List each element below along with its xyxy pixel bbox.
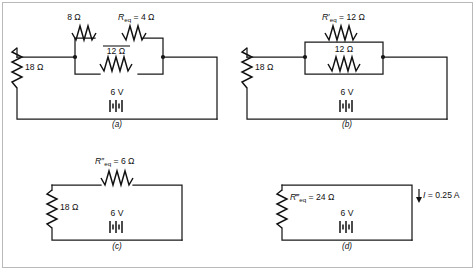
panel-a-resistor-18-symbol — [12, 48, 22, 88]
page-border — [3, 3, 473, 268]
panel-c-resistor-req-label: R″eq = 6 Ω — [95, 156, 135, 167]
panel-d-current-value: = 0.25 A — [425, 190, 459, 200]
panel-d-wire-left-rail-bottom — [282, 228, 412, 240]
panel-c-wire-left-rail-bottom — [52, 228, 182, 240]
panel-a-wire-upper-branch-right — [143, 38, 163, 57]
panel-b-resistor-18-symbol — [242, 48, 252, 88]
panel-a-resistor-12-symbol — [100, 57, 132, 71]
panel-b: 18 Ω R′eq = 12 Ω 12 Ω 6 V (b) — [242, 12, 447, 129]
panel-a-resistor-18-label: 18 Ω — [25, 62, 44, 72]
panel-a: 18 Ω 8 Ω Req = 4 Ω 12 Ω 6 V — [12, 12, 217, 129]
panel-a-resistor-8-label: 8 Ω — [67, 12, 81, 22]
panel-c-caption: (c) — [112, 242, 122, 251]
panel-d-resistor-req-label: R‴eq = 24 Ω — [290, 192, 335, 203]
panel-b-resistor-18-label: 18 Ω — [255, 62, 274, 72]
panel-c-resistor-18-symbol — [47, 190, 57, 228]
panel-a-caption: (a) — [112, 120, 122, 129]
panel-a-wire-middle-branch-right — [138, 57, 163, 74]
panel-b-wire-right-rail — [383, 57, 447, 119]
panel-c-battery-symbol — [110, 221, 122, 233]
panel-a-battery-label: 6 V — [111, 87, 124, 97]
panel-c-wire-top-right — [133, 185, 182, 240]
panel-a-wire-right-rail — [163, 57, 217, 119]
panel-b-resistor-req-label: R′eq = 12 Ω — [322, 12, 365, 23]
panel-b-resistor-req-symbol — [325, 26, 357, 40]
panel-a-resistor-12-label: 12 Ω — [107, 46, 126, 56]
panel-b-req-value: = 12 Ω — [337, 12, 366, 22]
panel-c-resistor-18-label: 18 Ω — [60, 202, 79, 212]
panel-d-current-label: I = 0.25 A — [423, 190, 460, 200]
panel-d-battery-label: 6 V — [341, 208, 354, 218]
panel-c: 18 Ω R″eq = 6 Ω 6 V (c) — [47, 156, 182, 251]
panel-d-req-value: = 24 Ω — [306, 192, 335, 202]
panel-d-caption: (d) — [342, 242, 352, 251]
panel-a-req-value: = 4 Ω — [131, 12, 155, 22]
panel-c-req-value: = 6 Ω — [111, 156, 135, 166]
panel-a-wire-middle-branch-left — [75, 57, 100, 74]
panel-d: R‴eq = 24 Ω 6 V I = 0.25 A (d) — [277, 185, 460, 251]
panel-b-caption: (b) — [342, 120, 352, 129]
panel-a-resistor-req-label: Req = 4 Ω — [118, 12, 155, 23]
current-arrow-icon — [416, 189, 422, 203]
panel-a-resistor-8-symbol — [72, 26, 96, 40]
panel-b-battery-symbol — [340, 100, 352, 112]
panel-d-battery-symbol — [340, 221, 352, 233]
panel-b-resistor-12-symbol — [328, 57, 360, 71]
panel-c-battery-label: 6 V — [111, 208, 124, 218]
panel-a-resistor-req-symbol — [122, 26, 146, 40]
circuit-figure: 18 Ω 8 Ω Req = 4 Ω 12 Ω 6 V — [0, 0, 475, 270]
panel-c-resistor-req-symbol — [101, 171, 133, 185]
panel-b-battery-label: 6 V — [341, 87, 354, 97]
panel-b-resistor-12-label: 12 Ω — [335, 44, 354, 54]
panel-d-resistor-req-symbol — [277, 190, 287, 228]
panel-a-battery-symbol — [110, 100, 122, 112]
